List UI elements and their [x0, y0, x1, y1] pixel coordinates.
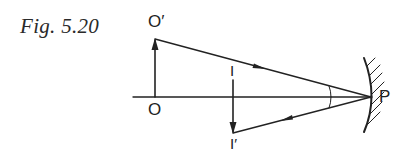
label-image-base: I [230, 63, 234, 78]
reflected-ray [233, 97, 371, 133]
pole-point [369, 95, 372, 98]
angle-mark-upper [329, 86, 331, 97]
reflected-ray-arrowhead [280, 115, 293, 121]
incident-ray-arrowhead [253, 64, 267, 70]
label-pole: P [379, 88, 390, 105]
angle-mark-lower [329, 97, 331, 108]
label-image-tip: I′ [230, 136, 237, 151]
ray-diagram [0, 0, 414, 162]
label-object-base: O [148, 101, 161, 118]
label-object-top: O′ [148, 13, 164, 30]
